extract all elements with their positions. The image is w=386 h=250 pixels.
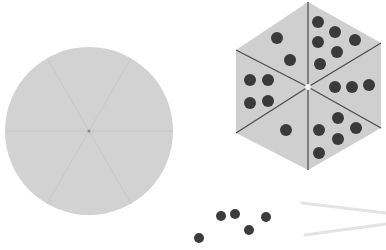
pointer-sticks xyxy=(302,203,386,235)
pointer-stick xyxy=(305,224,386,235)
hexagon-dot-bottom-right xyxy=(350,122,362,134)
hexagon-dot-top-right xyxy=(349,34,361,46)
circle-center-pin xyxy=(88,130,91,133)
hexagon-dot-top-right xyxy=(312,36,324,48)
loose-dots xyxy=(194,209,271,243)
scene-canvas xyxy=(0,0,386,250)
hexagon-dot-bottom-left xyxy=(280,124,292,136)
hexagon-dot-top-right xyxy=(329,26,341,38)
hexagon-dot-left xyxy=(262,74,274,86)
hexagon-dot-bottom-right xyxy=(332,133,344,145)
loose-dot xyxy=(244,225,254,235)
dotted-hexagon-spinner xyxy=(236,2,381,170)
pointer-stick xyxy=(302,203,386,213)
hexagon-dot-bottom-right xyxy=(313,147,325,159)
hexagon-dot-bottom-right xyxy=(313,124,325,136)
hexagon-dot-right xyxy=(329,81,341,93)
hexagon-dot-left xyxy=(244,97,256,109)
hexagon-dot-right xyxy=(363,79,375,91)
hexagon-center-pin xyxy=(305,84,311,90)
hexagon-dot-left xyxy=(244,74,256,86)
loose-dot xyxy=(230,209,240,219)
loose-dot xyxy=(216,211,226,221)
loose-dot xyxy=(194,233,204,243)
loose-dot xyxy=(261,212,271,222)
hexagon-dot-left xyxy=(262,95,274,107)
hexagon-dot-top-right xyxy=(314,58,326,70)
hexagon-dot-top-right xyxy=(331,46,343,58)
hexagon-dot-top-right xyxy=(312,16,324,28)
scene xyxy=(0,0,386,250)
hexagon-dot-top-left xyxy=(271,32,283,44)
hexagon-dot-top-left xyxy=(284,54,296,66)
blank-circle-spinner xyxy=(5,47,173,215)
hexagon-dot-right xyxy=(346,81,358,93)
hexagon-dot-bottom-right xyxy=(332,112,344,124)
